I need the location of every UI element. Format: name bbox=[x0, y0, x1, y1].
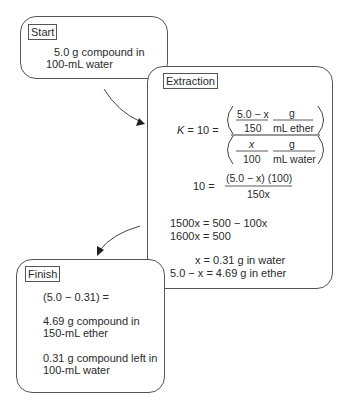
eq2-den: 150x bbox=[247, 188, 270, 201]
eq1-top-frac1-num: 5.0 − x bbox=[237, 108, 269, 121]
eq1-bot-frac2-num: g bbox=[289, 138, 295, 151]
eq4: 1600x = 500 bbox=[170, 230, 231, 243]
eq1-bot-frac2-den: mL water bbox=[273, 153, 316, 166]
eq6: 5.0 − x = 4.69 g in ether bbox=[170, 267, 286, 280]
eq1-top-frac2-num: g bbox=[289, 107, 295, 120]
finish-line-3: 150-mL ether bbox=[43, 327, 108, 340]
finish-line-1: (5.0 − 0.31) = bbox=[43, 291, 109, 304]
eq1-top-frac1-den: 150 bbox=[244, 122, 262, 135]
eq2-lhs: 10 = bbox=[193, 180, 215, 193]
finish-line-5: 100-mL water bbox=[43, 364, 110, 377]
eq1-bot-frac1-den: 100 bbox=[243, 153, 261, 166]
eq2-num: (5.0 − x) (100) bbox=[226, 172, 292, 185]
eq1-bot-frac1-num: x bbox=[249, 138, 254, 151]
finish-label: Finish bbox=[25, 266, 60, 282]
eq1-top-frac2-den: mL ether bbox=[273, 122, 314, 135]
eq3: 1500x = 500 − 100x bbox=[170, 217, 267, 230]
eq5: x = 0.31 g in water bbox=[195, 254, 285, 267]
